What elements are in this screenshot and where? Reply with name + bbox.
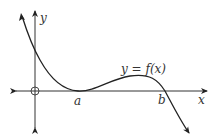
root-a-label: a [74,94,81,108]
function-label: y = f(x) [120,62,166,76]
x-axis-label: x [198,93,205,107]
curve-arrow-top [19,13,25,21]
y-axis-label: y [39,11,47,25]
root-b-label: b [158,93,166,107]
function-graph: y x a b y = f(x) [0,0,213,140]
